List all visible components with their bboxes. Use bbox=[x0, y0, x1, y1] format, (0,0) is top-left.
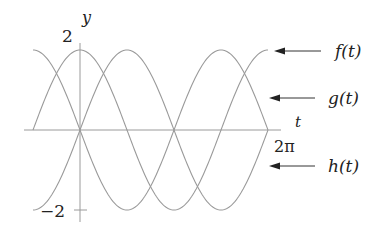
legend-h: h(t) bbox=[269, 156, 359, 176]
legend-label-g: g(t) bbox=[328, 88, 359, 108]
y-max-label: 2 bbox=[62, 26, 73, 46]
y-min-label: −2 bbox=[40, 201, 65, 221]
legend-f: f(t) bbox=[274, 41, 361, 61]
arrow-head-g-icon bbox=[269, 95, 280, 102]
arrow-head-f-icon bbox=[274, 48, 285, 55]
y-axis-label: y bbox=[81, 8, 92, 27]
legend-label-f: f(t) bbox=[333, 41, 361, 61]
legend-label-h: h(t) bbox=[328, 156, 359, 176]
x-max-label: 2π bbox=[274, 137, 295, 156]
chart: y 2 −2 t 2π f(t) g(t) h(t) bbox=[0, 0, 383, 235]
legend-g: g(t) bbox=[269, 88, 359, 108]
arrow-head-h-icon bbox=[269, 163, 280, 170]
t-axis-label: t bbox=[295, 113, 302, 131]
